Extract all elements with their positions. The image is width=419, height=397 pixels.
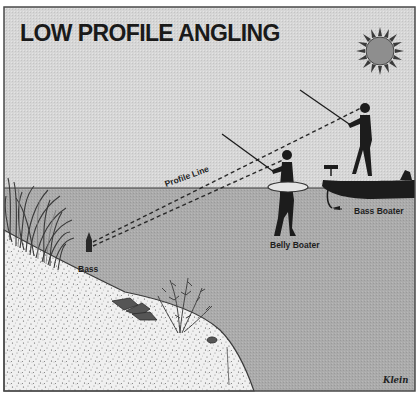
float-tube xyxy=(268,182,308,192)
bass-label: Bass xyxy=(78,264,99,274)
artist-signature: Klein xyxy=(382,375,408,385)
diagram-title: LOW PROFILE ANGLING xyxy=(20,20,280,46)
sun-icon xyxy=(356,27,404,75)
bass-boater-label: Bass Boater xyxy=(354,206,404,216)
belly-boater-label: Belly Boater xyxy=(270,240,320,250)
low-profile-angling-diagram: LOW PROFILE ANGLING xyxy=(0,0,419,397)
